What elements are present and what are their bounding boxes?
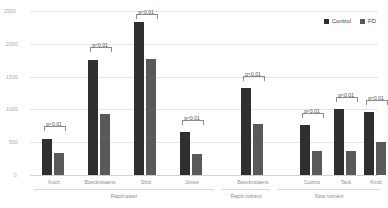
sig-bracket-tack: p<0.01 [336,91,356,102]
bar-control-boeckxstaens-rn[interactable] [241,88,251,175]
y-tick-0: 0 [14,172,17,178]
gridline-500 [30,142,378,143]
legend-swatch-fd [360,19,365,24]
legend-label-fd: FD [368,18,376,24]
cat-label-boeckxstaens-rw: Boeckxstaens [84,179,115,185]
group-label-rapid-nutrient: Rapid nutrient [230,193,261,199]
sig-bracket-boeckxstaens-rn: p<0.01 [243,70,263,81]
p-value-jones: p<0.01 [184,115,199,121]
plot-area: p<0.01 p<0.01 p<0.01 p<0.01 p<0.01 [30,11,378,175]
y-tick-1500: 1500 [6,74,18,80]
sig-bracket-cuomo: p<0.01 [302,107,322,118]
sig-bracket-boeckxstaens-rw: p<0.01 [90,41,110,52]
bar-fd-koch[interactable] [54,153,64,175]
sig-bracket-kindt: p<0.01 [366,94,386,105]
bar-control-boeckxstaens-rw[interactable] [88,60,98,176]
cat-label-boeckxstaens-rn: Boeckxstaens [237,179,268,185]
chart-legend: Control FD [324,18,376,24]
bar-fd-boeckxstaens-rn[interactable] [253,124,263,175]
p-value-tack: p<0.01 [338,92,353,98]
gridline-1500 [30,77,378,78]
p-value-strid: p<0.01 [138,9,153,15]
y-tick-500: 500 [9,139,18,145]
p-value-boeckxstaens-rn: p<0.01 [245,71,260,77]
p-value-boeckxstaens-rw: p<0.01 [92,42,107,48]
bar-control-jones[interactable] [180,132,190,175]
gridline-2500 [30,11,378,12]
group-label-rapid-water: Rapid water [111,193,138,199]
cat-label-jones: Jones [185,179,198,185]
p-value-cuomo: p<0.01 [304,108,319,114]
bar-control-cuomo[interactable] [300,125,310,175]
gridline-2000 [30,44,378,45]
cat-label-koch: Koch [48,179,59,185]
bar-control-tack[interactable] [334,109,344,175]
gridline-1000 [30,109,378,110]
sig-bracket-jones: p<0.01 [182,114,202,125]
p-value-koch: p<0.01 [46,121,61,127]
legend-swatch-control [324,19,329,24]
p-value-kindt: p<0.01 [368,95,383,101]
group-rule-rapid-nutrient [222,189,270,190]
y-tick-1000: 1000 [6,106,18,112]
cat-label-tack: Tack [341,179,351,185]
bar-fd-jones[interactable] [192,154,202,175]
y-tick-2500: 2500 [4,8,16,14]
group-rule-rapid-water [34,189,214,190]
legend-item-fd[interactable]: FD [360,18,376,24]
sig-bracket-strid: p<0.01 [136,8,156,19]
sig-bracket-koch: p<0.01 [44,120,64,131]
gridline-0 [30,175,378,176]
bar-control-strid[interactable] [134,22,144,175]
cat-label-cuomo: Cuomo [304,179,320,185]
bar-fd-boeckxstaens-rw[interactable] [100,114,110,175]
group-rule-slow-nutrient [278,189,380,190]
bar-control-koch[interactable] [42,139,52,175]
group-label-slow-nutrient: Slow nutrient [315,193,344,199]
legend-label-control: Control [332,18,351,24]
cat-label-strid: Strid [141,179,151,185]
bar-control-kindt[interactable] [364,112,374,175]
legend-item-control[interactable]: Control [324,18,351,24]
bar-fd-strid[interactable] [146,59,156,175]
y-tick-2000: 2000 [6,41,18,47]
bar-fd-cuomo[interactable] [312,151,322,175]
cat-label-kindt: Kindt [370,179,381,185]
bar-fd-tack[interactable] [346,151,356,175]
bar-fd-kindt[interactable] [376,142,386,176]
